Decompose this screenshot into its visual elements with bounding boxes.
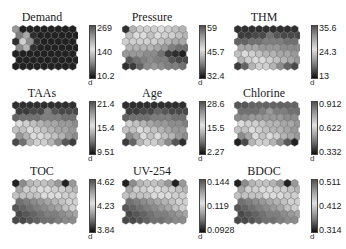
panel-title: Chlorine — [224, 86, 304, 100]
hex-cell — [158, 138, 165, 146]
unit-label: d — [198, 232, 202, 241]
panel-title: Age — [112, 86, 192, 100]
hex-cell — [136, 138, 143, 146]
hex-cell — [69, 216, 76, 224]
hex-cell — [62, 62, 69, 70]
hex-cell — [270, 138, 277, 146]
hex-cell — [55, 62, 62, 70]
hex-map — [12, 101, 78, 155]
hex-cell — [284, 62, 291, 70]
hex-cell — [48, 216, 55, 224]
hex-cell — [179, 216, 186, 224]
hex-cell — [234, 62, 241, 70]
unit-label: d — [88, 232, 92, 241]
hex-cell — [270, 216, 277, 224]
hex-cell — [151, 62, 158, 70]
hex-cell — [26, 216, 33, 224]
panel-title: Pressure — [112, 10, 192, 24]
colorbar — [311, 25, 318, 79]
hex-cell — [151, 138, 158, 146]
panel-title: TOC — [2, 164, 82, 178]
hex-cell — [263, 138, 270, 146]
hex-cell — [291, 216, 298, 224]
hex-cell — [62, 216, 69, 224]
hex-cell — [55, 138, 62, 146]
hex-cell — [151, 216, 158, 224]
colorbar — [89, 25, 96, 79]
colorbar-label-mid: 24.3 — [319, 47, 337, 57]
hex-cell — [34, 62, 41, 70]
panel-title: UV-254 — [112, 164, 192, 178]
hex-cell — [144, 138, 151, 146]
hex-cell — [277, 62, 284, 70]
hex-cell — [263, 216, 270, 224]
hex-cell — [48, 62, 55, 70]
hex-cell — [69, 138, 76, 146]
hex-cell — [136, 62, 143, 70]
hex-cell — [179, 138, 186, 146]
hex-cell — [144, 62, 151, 70]
unit-label: d — [310, 154, 314, 163]
hex-cell — [241, 62, 248, 70]
hex-cell — [248, 216, 255, 224]
panel-title: THM — [224, 10, 304, 24]
colorbar-label-max: 0.511 — [319, 177, 341, 187]
colorbar-label-mid: 0.622 — [319, 123, 342, 133]
hex-cell — [158, 216, 165, 224]
colorbar-label-max: 269 — [97, 23, 112, 33]
hex-cell — [172, 216, 179, 224]
hex-cell — [256, 216, 263, 224]
panel-age: Age28.615.52.27d — [112, 86, 222, 164]
panel-thm: THM35.624.313d — [224, 10, 334, 88]
colorbar-label-mid: 0.412 — [319, 201, 342, 211]
colorbar-label-min: 0.332 — [319, 147, 342, 157]
hex-cell — [277, 216, 284, 224]
hex-cell — [284, 216, 291, 224]
hex-cell — [129, 138, 136, 146]
colorbar-label-min: 0.314 — [319, 225, 342, 235]
hex-map — [234, 179, 300, 233]
hex-cell — [122, 62, 129, 70]
hex-cell — [144, 216, 151, 224]
hex-cell — [284, 138, 291, 146]
colorbar-label-max: 59 — [207, 23, 217, 33]
hex-map — [122, 179, 188, 233]
panel-taas: TAAs21.415.49.51d — [2, 86, 112, 164]
panel-chlorine: Chlorine0.9120.6220.332d — [224, 86, 334, 164]
colorbar — [89, 101, 96, 155]
unit-label: d — [88, 154, 92, 163]
hex-cell — [129, 216, 136, 224]
hex-cell — [165, 216, 172, 224]
colorbar — [199, 179, 206, 233]
hex-cell — [241, 138, 248, 146]
hex-cell — [41, 138, 48, 146]
unit-label: d — [198, 154, 202, 163]
panel-pressure: Pressure5945.732.4d — [112, 10, 222, 88]
colorbar-label-max: 35.6 — [319, 23, 337, 33]
hex-cell — [291, 62, 298, 70]
panel-uv-254: UV-2540.1440.1190.0928d — [112, 164, 222, 242]
hex-cell — [248, 62, 255, 70]
hex-cell — [122, 216, 129, 224]
hex-cell — [291, 138, 298, 146]
hex-cell — [256, 62, 263, 70]
colorbar — [199, 25, 206, 79]
colorbar-label-min: 2.27 — [207, 147, 225, 157]
hex-map — [122, 25, 188, 79]
hex-cell — [263, 62, 270, 70]
hex-map — [122, 101, 188, 155]
hex-cell — [248, 138, 255, 146]
unit-label: d — [310, 232, 314, 241]
hex-cell — [34, 138, 41, 146]
hex-cell — [41, 216, 48, 224]
hex-map — [234, 101, 300, 155]
hex-map — [234, 25, 300, 79]
hex-cell — [19, 216, 26, 224]
hex-map — [12, 179, 78, 233]
hex-cell — [234, 216, 241, 224]
hex-cell — [12, 138, 19, 146]
colorbar-label-mid: 15.5 — [207, 123, 225, 133]
panel-toc: TOC4.624.233.84d — [2, 164, 112, 242]
hex-cell — [241, 216, 248, 224]
hex-cell — [179, 62, 186, 70]
